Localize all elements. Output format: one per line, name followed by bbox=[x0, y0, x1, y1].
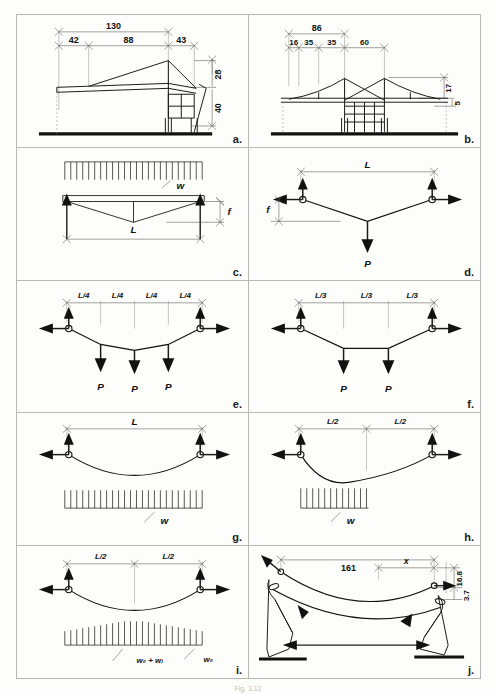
panel-j: 161 x 16.8 3.7 bbox=[249, 546, 481, 679]
panel-tag-d: d. bbox=[464, 266, 474, 278]
load-label-e-1: P bbox=[97, 381, 104, 392]
point-load-e-2 bbox=[129, 350, 141, 374]
seg-label-e-2: L/4 bbox=[112, 290, 124, 299]
reaction-arrow-right-i bbox=[195, 568, 205, 590]
load-label-f-2: P bbox=[385, 383, 392, 394]
distributed-load-comb-c bbox=[65, 162, 202, 180]
reaction-arrow-left-h bbox=[296, 433, 306, 455]
seg-label-h-1: L/2 bbox=[327, 417, 339, 426]
panel-c: w bbox=[17, 148, 249, 281]
distributed-load-comb-i bbox=[65, 622, 202, 646]
load-label-g-w: w bbox=[160, 515, 169, 526]
dim-a-28: 28 bbox=[213, 69, 223, 79]
panel-tag-j: j. bbox=[468, 664, 474, 676]
dim-b-5: 5 bbox=[453, 100, 462, 105]
load-label-e-3: P bbox=[165, 381, 172, 392]
panel-d: L bbox=[249, 148, 481, 281]
point-load-f-1 bbox=[338, 348, 350, 374]
dim-a-88: 88 bbox=[124, 35, 134, 45]
dim-b-16: 16 bbox=[289, 38, 298, 47]
dim-a-42: 42 bbox=[69, 35, 79, 45]
load-label-f-1: P bbox=[340, 383, 347, 394]
panel-e: L/4 L/4 L/4 L/4 bbox=[17, 281, 249, 414]
span-label-d-L: L bbox=[364, 159, 370, 170]
panel-tag-h: h. bbox=[464, 531, 474, 543]
reaction-arrow-left-i bbox=[64, 568, 74, 590]
dim-b-35-b: 35 bbox=[327, 38, 336, 47]
panel-i: L/2 L/2 bbox=[17, 546, 249, 679]
thrust-arrow-left-g bbox=[39, 450, 69, 460]
dim-a-43: 43 bbox=[176, 35, 186, 45]
reaction-arrow-right-g bbox=[195, 433, 205, 455]
panel-tag-e: e. bbox=[233, 398, 242, 410]
panel-tag-a: a. bbox=[233, 133, 242, 145]
seg-label-i-1: L/2 bbox=[95, 552, 107, 561]
seg-label-h-2: L/2 bbox=[395, 417, 407, 426]
dim-b-60: 60 bbox=[360, 38, 369, 47]
point-load-e-3 bbox=[162, 344, 174, 372]
upper-cable-j bbox=[261, 555, 456, 602]
seg-label-e-1: L/4 bbox=[78, 290, 90, 299]
reaction-arrow-left-g bbox=[64, 433, 74, 455]
load-label-h-w: w bbox=[347, 515, 356, 526]
figure-sheet: 130 42 88 43 28 40 bbox=[0, 0, 496, 694]
reaction-arrow-left-e bbox=[64, 306, 74, 328]
panel-tag-c: c. bbox=[233, 266, 242, 278]
reaction-arrow-left-c bbox=[62, 193, 72, 239]
seg-label-f-2: L/3 bbox=[361, 290, 373, 299]
reaction-arrow-left-f bbox=[296, 306, 306, 328]
distributed-load-comb-h bbox=[301, 489, 369, 509]
thrust-arrow-right-d bbox=[432, 194, 462, 204]
load-label-e-2: P bbox=[131, 383, 138, 394]
panel-tag-f: f. bbox=[467, 398, 474, 410]
dim-a-130: 130 bbox=[106, 21, 121, 31]
reaction-arrow-left-d bbox=[298, 178, 308, 200]
reaction-arrow-right-e bbox=[195, 306, 205, 328]
seg-label-e-3: L/4 bbox=[146, 290, 158, 299]
dim-j-3-7: 3.7 bbox=[462, 590, 471, 602]
panel-grid: 130 42 88 43 28 40 bbox=[16, 14, 481, 679]
panel-h: L/2 L/2 bbox=[249, 413, 481, 546]
load-label-i-1: w₀ + wₗ bbox=[137, 656, 164, 665]
seg-label-i-2: L/2 bbox=[163, 552, 175, 561]
load-label-i-2: w₀ bbox=[204, 655, 213, 664]
dim-a-40: 40 bbox=[213, 103, 223, 113]
thrust-arrow-right-g bbox=[200, 450, 230, 460]
panel-b: 86 16 35 35 60 17 5 bbox=[249, 15, 481, 148]
point-load-d bbox=[362, 221, 374, 253]
reaction-arrow-right-f bbox=[427, 306, 437, 328]
load-label-d-P: P bbox=[364, 258, 371, 269]
seg-label-f-3: L/3 bbox=[407, 290, 419, 299]
ground-tie-j bbox=[283, 640, 430, 650]
thrust-arrow-left-d bbox=[273, 194, 303, 204]
thrust-arrow-right-h bbox=[432, 450, 462, 460]
lower-cable-j bbox=[273, 590, 440, 628]
distributed-load-comb-g bbox=[65, 491, 202, 509]
span-label-g-L: L bbox=[131, 416, 137, 427]
load-label-c-w: w bbox=[176, 179, 185, 190]
reaction-arrow-right-h bbox=[427, 433, 437, 455]
panel-a: 130 42 88 43 28 40 bbox=[17, 15, 249, 148]
panel-g: L bbox=[17, 413, 249, 546]
panel-tag-i: i. bbox=[236, 664, 242, 676]
figure-caption: Fig. 3.12 bbox=[0, 685, 496, 692]
thrust-arrow-left-f bbox=[271, 323, 301, 333]
panel-tag-g: g. bbox=[232, 531, 242, 543]
point-load-e-1 bbox=[95, 344, 107, 372]
thrust-arrow-right-f bbox=[432, 323, 462, 333]
thrust-arrow-right-e bbox=[200, 323, 230, 333]
reaction-arrow-right-c bbox=[195, 193, 205, 239]
dim-j-161: 161 bbox=[341, 563, 356, 573]
panel-tag-b: b. bbox=[464, 133, 474, 145]
thrust-arrow-left-i bbox=[39, 585, 69, 595]
dim-b-86: 86 bbox=[312, 23, 322, 33]
dim-b-17: 17 bbox=[444, 83, 453, 92]
sag-label-d-f: f bbox=[266, 204, 271, 215]
dim-b-35-a: 35 bbox=[304, 38, 313, 47]
thrust-arrow-left-h bbox=[271, 450, 301, 460]
sag-label-c-f: f bbox=[227, 206, 232, 217]
thrust-arrow-left-e bbox=[39, 323, 69, 333]
seg-label-f-1: L/3 bbox=[315, 290, 327, 299]
span-label-c-L: L bbox=[130, 224, 136, 235]
dim-j-x: x bbox=[403, 556, 410, 566]
